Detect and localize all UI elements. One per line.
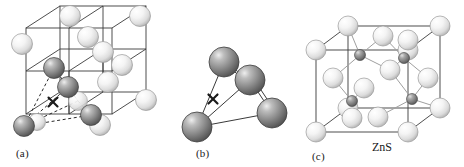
- panel-c-label: (c): [312, 150, 325, 162]
- panel-b-hole-marker: [209, 95, 218, 104]
- figure-container: (a) (b) (c) ZnS: [0, 0, 464, 167]
- panel-b-label: (b): [196, 147, 209, 159]
- zns-formula-label: ZnS: [372, 140, 392, 155]
- panel-b-tetrahedron: [182, 47, 287, 142]
- panel-a-label: (a): [16, 147, 29, 159]
- panel-a-hole-marker: [49, 98, 58, 107]
- panel-b-spheres: [182, 47, 287, 142]
- panel-a-fcc-lattice: [12, 6, 157, 137]
- panel-c-zinc-spheres: [347, 50, 418, 107]
- panel-c-zns-unit-cell: [306, 16, 450, 142]
- crystal-structure-figure: [0, 0, 464, 167]
